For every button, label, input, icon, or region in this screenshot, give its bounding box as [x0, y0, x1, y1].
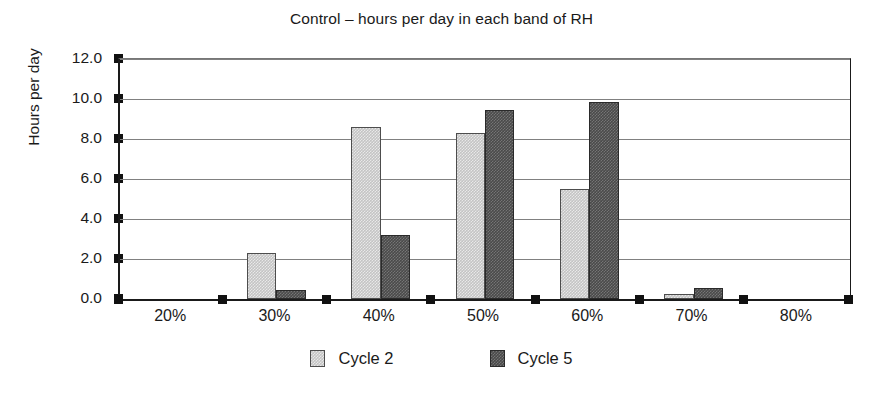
y-tick-label: 10.0	[40, 90, 102, 106]
x-tick-label: 70%	[637, 308, 747, 324]
x-tick-marker	[531, 295, 540, 304]
bar-30pct-cycle-5	[276, 290, 305, 299]
x-tick-marker	[739, 295, 748, 304]
x-tick-marker	[114, 295, 123, 304]
bar-70pct-cycle-2	[664, 294, 693, 299]
bar-60pct-cycle-2	[560, 189, 589, 299]
bar-30pct-cycle-2	[247, 253, 276, 299]
x-tick-marker	[218, 295, 227, 304]
y-tick-label: 4.0	[40, 210, 102, 226]
legend-label: Cycle 2	[338, 350, 393, 367]
y-tick-label: 12.0	[40, 50, 102, 66]
y-axis-title: Hours per day	[25, 7, 43, 187]
x-tick-marker	[426, 295, 435, 304]
y-tick-label: 6.0	[40, 170, 102, 186]
chart-legend: Cycle 2Cycle 5	[0, 350, 883, 367]
x-tick-label: 60%	[532, 308, 642, 324]
y-tick-label: 2.0	[40, 250, 102, 266]
x-tick-marker	[635, 295, 644, 304]
x-tick-label: 80%	[741, 308, 851, 324]
bar-50pct-cycle-5	[485, 110, 514, 299]
legend-swatch-icon	[310, 350, 325, 367]
x-tick-marker	[322, 295, 331, 304]
legend-label: Cycle 5	[518, 350, 573, 367]
gridline	[120, 59, 850, 60]
plot-area	[118, 58, 851, 301]
x-tick-label: 40%	[324, 308, 434, 324]
gridline	[120, 99, 850, 100]
bar-70pct-cycle-5	[694, 288, 723, 299]
x-tick-marker	[844, 295, 853, 304]
bar-60pct-cycle-5	[589, 102, 618, 299]
chart-title: Control – hours per day in each band of …	[0, 10, 883, 28]
x-tick-label: 30%	[219, 308, 329, 324]
legend-entry-cycle-2[interactable]: Cycle 2	[310, 350, 393, 367]
legend-entry-cycle-5[interactable]: Cycle 5	[490, 350, 573, 367]
bar-40pct-cycle-2	[351, 127, 380, 299]
bar-chart: Control – hours per day in each band of …	[0, 0, 883, 397]
y-tick-label: 8.0	[40, 130, 102, 146]
bar-40pct-cycle-5	[381, 235, 410, 299]
bar-50pct-cycle-2	[456, 133, 485, 299]
x-tick-label: 50%	[428, 308, 538, 324]
legend-swatch-icon	[490, 350, 505, 367]
y-tick-label: 0.0	[40, 290, 102, 306]
x-tick-label: 20%	[115, 308, 225, 324]
